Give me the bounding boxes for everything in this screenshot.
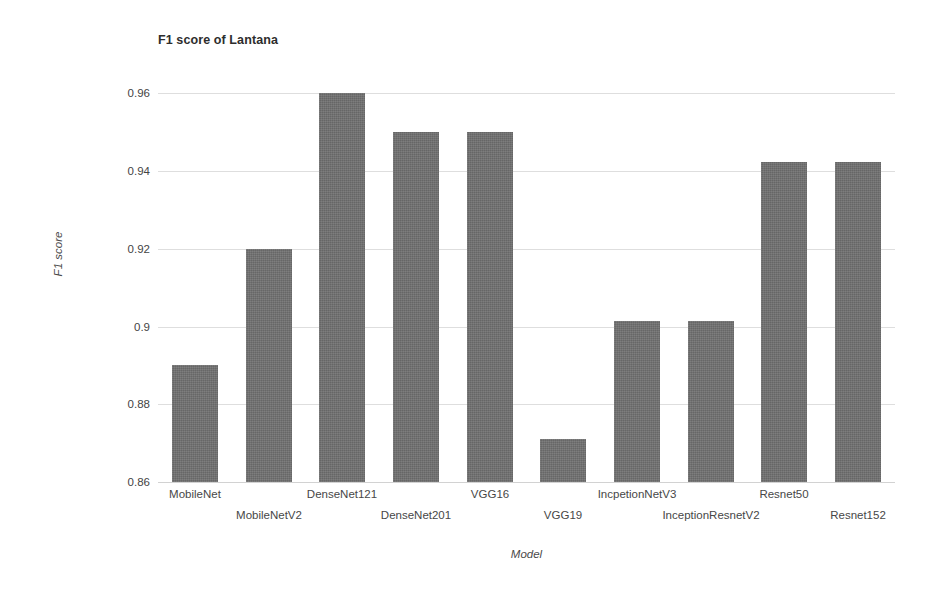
bar (246, 249, 292, 482)
bar (319, 93, 365, 482)
bar (393, 132, 439, 482)
y-axis-tick-label: 0.88 (104, 398, 150, 410)
x-axis-tick-label: IncpetionNetV3 (598, 488, 677, 500)
gridline (158, 93, 895, 94)
page-title: F1 score of Lantana (158, 33, 278, 47)
bar (172, 365, 218, 482)
x-axis-tick-label: VGG19 (544, 509, 582, 521)
bar (688, 321, 734, 482)
y-axis-tick-label: 0.92 (104, 243, 150, 255)
x-axis-title: Model (158, 548, 895, 560)
bar (467, 132, 513, 482)
x-axis-tick-label: InceptionResnetV2 (662, 509, 759, 521)
bar (540, 439, 586, 482)
bar (835, 162, 881, 482)
bar (761, 162, 807, 482)
y-axis-tick-labels: 0.860.880.90.920.940.96 (98, 74, 150, 482)
x-axis-tick-label: DenseNet121 (307, 488, 377, 500)
x-axis-tick-label: MobileNetV2 (236, 509, 302, 521)
x-axis-tick-label: Resnet50 (759, 488, 808, 500)
plot-area (158, 74, 895, 482)
x-axis-tick-label: DenseNet201 (381, 509, 451, 521)
x-axis-tick-label: VGG16 (471, 488, 509, 500)
chart-figure: F1 score of Lantana F1 score 0.860.880.9… (0, 0, 937, 589)
y-axis-title: F1 score (52, 194, 64, 314)
x-axis-tick-label: MobileNet (169, 488, 221, 500)
y-axis-tick-label: 0.9 (104, 321, 150, 333)
y-axis-tick-label: 0.86 (104, 476, 150, 488)
y-axis-tick-label: 0.96 (104, 87, 150, 99)
y-axis-tick-label: 0.94 (104, 165, 150, 177)
bar (614, 321, 660, 482)
x-axis-tick-labels: MobileNetMobileNetV2DenseNet121DenseNet2… (158, 482, 895, 538)
x-axis-tick-label: Resnet152 (830, 509, 886, 521)
